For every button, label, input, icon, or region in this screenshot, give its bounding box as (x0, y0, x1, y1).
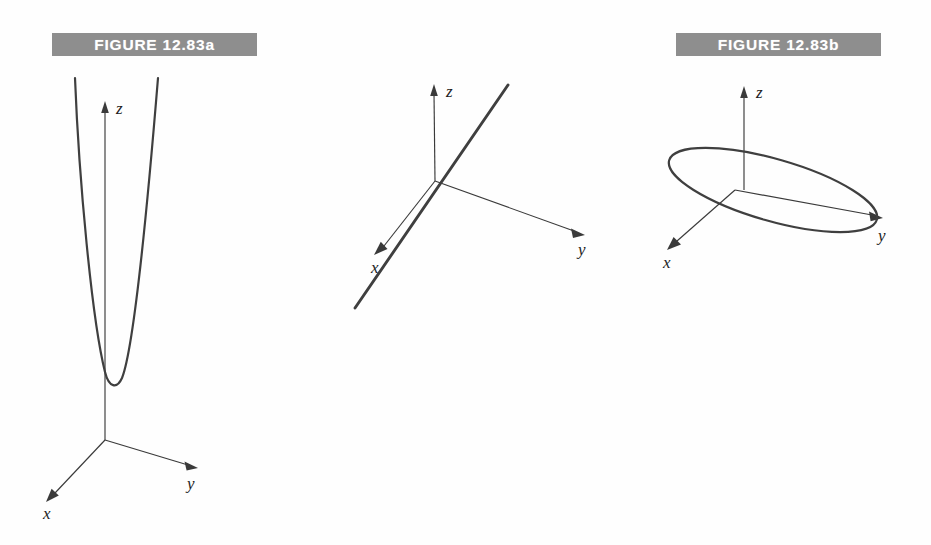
figure-panel-b: FIGURE 12.83b (320, 0, 620, 545)
figure-label-a: FIGURE 12.83a (52, 33, 257, 56)
figure-b-y-axis-label: y (578, 240, 586, 260)
figure-b-z-axis-label: z (446, 82, 453, 102)
figure-a-x-axis-label: x (43, 504, 51, 524)
figure-sheet: FIGURE 12.83a FIGURE 12.83b FIGURE 12.83… (0, 0, 931, 545)
figure-a-y-axis-label: y (187, 474, 195, 494)
figure-c-y-axis-label: y (878, 226, 886, 246)
figure-a-z-axis-label: z (116, 99, 123, 119)
figure-panel-a: FIGURE 12.83a (0, 0, 320, 545)
figure-c-z-axis-label: z (756, 83, 763, 103)
figure-b-x-axis-label: x (371, 258, 379, 278)
figure-c-x-axis-label: x (663, 253, 671, 273)
